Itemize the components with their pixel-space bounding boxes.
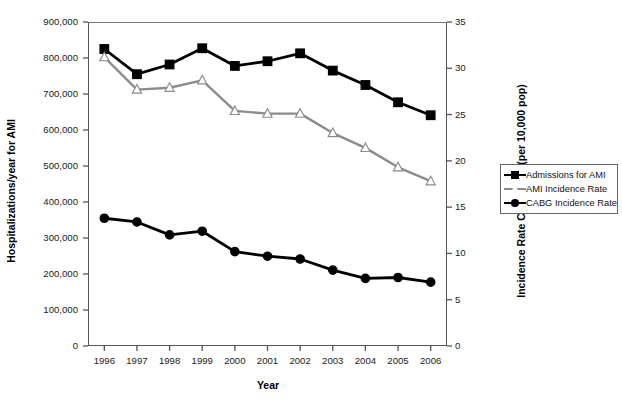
legend-triangle-marker-icon (504, 183, 526, 195)
legend-square-marker-icon (504, 169, 526, 181)
plot-area (88, 22, 447, 346)
y-axis-right-tick: 30 (455, 62, 485, 73)
y-axis-right-tick: 0 (455, 340, 485, 351)
legend-circle-marker-icon (504, 197, 526, 209)
y-axis-left-tick: 0 (16, 340, 78, 351)
y-axis-left-tick: 900,000 (16, 16, 78, 27)
chart-figure: Hospitalizations/year for AMI Incidence … (0, 0, 622, 419)
legend-item[interactable]: CABG Incidence Rate (503, 196, 615, 210)
x-axis-tick: 2006 (411, 355, 451, 366)
y-axis-right-tick: 15 (455, 201, 485, 212)
y-axis-left-tick: 800,000 (16, 52, 78, 63)
legend-item-label: CABG Incidence Rate (526, 198, 617, 209)
y-axis-left-tick: 300,000 (16, 232, 78, 243)
x-axis-title: Year (88, 379, 448, 391)
legend-item[interactable]: AMI Incidence Rate (503, 182, 615, 196)
y-axis-right-tick: 10 (455, 247, 485, 258)
chart-legend: Admissions for AMIAMI Incidence RateCABG… (500, 164, 618, 214)
y-axis-right-tick: 25 (455, 109, 485, 120)
y-axis-left-tick: 500,000 (16, 160, 78, 171)
y-axis-left-tick: 700,000 (16, 88, 78, 99)
y-axis-right-tick: 35 (455, 16, 485, 27)
y-axis-right-tick: 5 (455, 294, 485, 305)
y-axis-left-tick: 100,000 (16, 304, 78, 315)
y-axis-left-tick: 200,000 (16, 268, 78, 279)
y-axis-left-tick: 600,000 (16, 124, 78, 135)
legend-item[interactable]: Admissions for AMI (503, 168, 615, 182)
legend-item-label: AMI Incidence Rate (526, 184, 607, 195)
legend-item-label: Admissions for AMI (526, 170, 606, 181)
y-axis-left-tick: 400,000 (16, 196, 78, 207)
y-axis-right-tick: 20 (455, 155, 485, 166)
